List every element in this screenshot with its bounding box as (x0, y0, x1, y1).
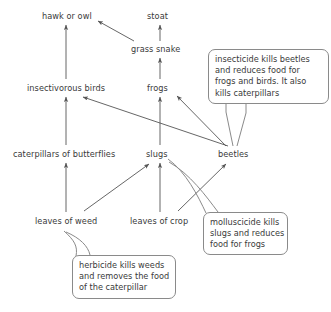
node-grass-snake[interactable]: grass snake (131, 44, 180, 54)
callout-molluscicide-line-2: slugs and reduces (210, 228, 281, 239)
node-leaves-of-weed[interactable]: leaves of weed (35, 216, 97, 226)
herbicide-callout-tail (64, 231, 77, 256)
callout-molluscicide-line-1: molluscicide kills (210, 217, 281, 228)
node-caterpillars-of-butterflies[interactable]: caterpillars of butterflies (13, 149, 115, 159)
insecticide-callout-tail (226, 104, 233, 146)
callout-herbicide-line-1: herbicide kills weeds (79, 260, 169, 271)
callout-herbicide-line-2: and removes the food (79, 271, 169, 282)
callout-insecticide[interactable]: insecticide kills beetles and reduces fo… (208, 49, 329, 104)
molluscicide-callout-tail (168, 159, 206, 213)
callout-molluscicide[interactable]: molluscicide kills slugs and reduces foo… (203, 212, 288, 255)
callout-insecticide-line-2: and reduces food for (215, 65, 322, 76)
food-web-diagram: hawk or owl stoat grass snake insectivor… (0, 0, 331, 312)
node-frogs[interactable]: frogs (147, 83, 168, 93)
callout-insecticide-line-1: insecticide kills beetles (215, 54, 322, 65)
callout-herbicide[interactable]: herbicide kills weeds and removes the fo… (72, 255, 176, 299)
herbicide-callout-tail-2 (66, 232, 90, 255)
node-stoat[interactable]: stoat (147, 11, 168, 21)
callout-herbicide-line-3: of the caterpillar (79, 282, 169, 293)
node-leaves-of-crop[interactable]: leaves of crop (130, 216, 188, 226)
node-beetles[interactable]: beetles (218, 149, 248, 159)
insecticide-callout-tail-2 (237, 104, 246, 146)
callout-insecticide-line-3: frogs and birds. It also (215, 76, 322, 87)
molluscicide-callout-tail-2 (169, 162, 218, 212)
node-hawk-or-owl[interactable]: hawk or owl (42, 11, 92, 21)
node-insectivorous-birds[interactable]: insectivorous birds (27, 83, 105, 93)
callout-molluscicide-line-3: food for frogs (210, 239, 281, 250)
callout-insecticide-line-4: kills caterpillars (215, 88, 322, 99)
node-slugs[interactable]: slugs (146, 149, 167, 159)
